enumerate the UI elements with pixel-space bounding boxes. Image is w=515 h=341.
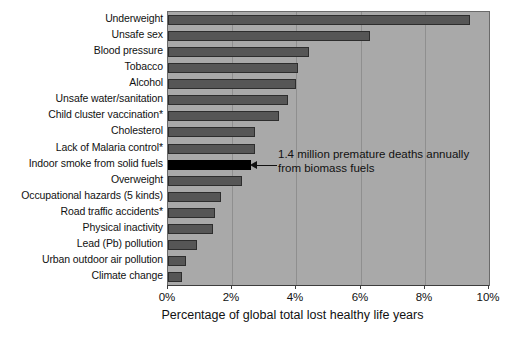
category-label: Blood pressure — [0, 45, 163, 56]
bar — [168, 63, 298, 73]
category-label: Occupational hazards (5 kinds) — [0, 190, 163, 201]
x-axis-tick — [360, 285, 361, 289]
category-label: Alcohol — [0, 77, 163, 88]
x-axis-tick-label: 8% — [416, 291, 433, 303]
annotation-leader-line — [257, 165, 277, 166]
x-axis-tick — [295, 285, 296, 289]
x-axis-title: Percentage of global total lost healthy … — [0, 308, 515, 322]
category-label: Climate change — [0, 270, 163, 281]
bar — [168, 15, 470, 25]
x-axis-tick — [488, 285, 489, 289]
category-label: Physical inactivity — [0, 222, 163, 233]
bar — [168, 240, 197, 250]
x-axis-tick-label: 4% — [287, 291, 304, 303]
category-label: Lead (Pb) pollution — [0, 238, 163, 249]
bar — [168, 208, 215, 218]
category-label: Cholesterol — [0, 125, 163, 136]
x-axis-title-text: Percentage of global total lost healthy … — [92, 308, 424, 322]
category-label: Urban outdoor air pollution — [0, 254, 163, 265]
category-label: Road traffic accidents* — [0, 206, 163, 217]
bar — [168, 47, 309, 57]
bar-chart: UnderweightUnsafe sexBlood pressureTobac… — [0, 0, 515, 341]
x-axis-tick-label: 2% — [223, 291, 240, 303]
x-axis-tick-label: 10% — [476, 291, 499, 303]
bar — [168, 95, 288, 105]
bar — [168, 192, 221, 202]
bar — [168, 127, 255, 137]
bar — [168, 224, 213, 234]
bar — [168, 31, 370, 41]
annotation-arrow-icon — [250, 161, 257, 169]
category-label: Indoor smoke from solid fuels — [0, 158, 163, 169]
bar — [168, 79, 296, 89]
x-axis-tick — [167, 285, 168, 289]
bar — [168, 144, 255, 154]
bar — [168, 111, 279, 121]
bar — [168, 176, 242, 186]
category-label: Underweight — [0, 13, 163, 24]
x-axis-line — [167, 285, 489, 286]
category-label: Child cluster vaccination* — [0, 109, 163, 120]
x-axis-tick — [231, 285, 232, 289]
annotation-line-1: 1.4 million premature deaths annually — [278, 147, 469, 161]
bar — [168, 160, 251, 170]
category-label: Unsafe water/sanitation — [0, 93, 163, 104]
category-axis-labels: UnderweightUnsafe sexBlood pressureTobac… — [0, 11, 163, 284]
category-label: Overweight — [0, 174, 163, 185]
bar — [168, 256, 186, 266]
category-label: Tobacco — [0, 61, 163, 72]
bar — [168, 272, 182, 282]
annotation-line-2: from biomass fuels — [278, 161, 469, 175]
annotation-callout: 1.4 million premature deaths annually fr… — [278, 147, 469, 175]
x-axis-tick-label: 6% — [352, 291, 369, 303]
category-label: Lack of Malaria control* — [0, 142, 163, 153]
x-axis-tick-label: 0% — [159, 291, 176, 303]
x-axis-tick — [424, 285, 425, 289]
category-label: Unsafe sex — [0, 29, 163, 40]
